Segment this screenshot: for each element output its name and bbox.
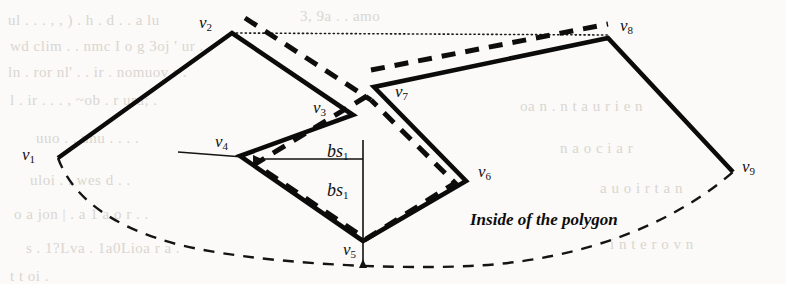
v4-support-line [178, 152, 243, 157]
polygon-diagram [0, 0, 786, 284]
vertex-label-base: v [215, 132, 223, 151]
figure-canvas: ul . . . , , ) . h . d . . a lu3, 9a . .… [0, 0, 786, 284]
vertex-label-v4: v4 [215, 133, 228, 150]
vertex-label-subscript: 5 [351, 248, 357, 260]
vertex-label-v1: v1 [22, 146, 35, 163]
vertex-label-subscript: 9 [750, 165, 756, 177]
vertex-label-base: v [343, 240, 351, 259]
bisector-label-subscript: 1 [343, 150, 349, 162]
vertex-label-v6: v6 [478, 163, 491, 180]
dashed-offset-upper [245, 18, 371, 100]
vertex-label-base: v [199, 13, 207, 32]
vertex-label-v3: v3 [313, 99, 326, 116]
vertex-label-base: v [22, 145, 30, 164]
vertex-label-v5: v5 [343, 241, 356, 258]
bisector-label-bs1-horizontal: bs1 [327, 142, 349, 160]
vertex-label-subscript: 3 [321, 106, 327, 118]
vertex-label-subscript: 4 [223, 140, 229, 152]
dotted-sightline [232, 33, 608, 35]
bisector-label-base: bs [327, 141, 343, 161]
vertex-label-base: v [478, 162, 486, 181]
vertex-label-base: v [742, 157, 750, 176]
inside-polygon-caption: Inside of the polygon [470, 210, 618, 230]
vertex-label-v7: v7 [395, 83, 408, 100]
bisector-label-base: bs [327, 180, 343, 200]
vertex-label-base: v [620, 16, 628, 35]
vertex-label-subscript: 6 [486, 170, 492, 182]
dashed-polygon-boundary [58, 158, 733, 267]
vertex-label-v9: v9 [742, 158, 755, 175]
vertex-label-v8: v8 [620, 17, 633, 34]
vertex-label-base: v [395, 82, 403, 101]
bisector-label-subscript: 1 [343, 189, 349, 201]
dashed-offset-inner [255, 96, 455, 239]
vertex-label-subscript: 7 [403, 90, 409, 102]
vertex-label-v2: v2 [199, 14, 212, 31]
bisector-label-bs1-vertical: bs1 [327, 181, 349, 199]
vertex-label-base: v [313, 98, 321, 117]
vertex-label-subscript: 2 [207, 21, 213, 33]
vertex-label-subscript: 1 [30, 153, 36, 165]
vertex-label-subscript: 8 [628, 24, 634, 36]
